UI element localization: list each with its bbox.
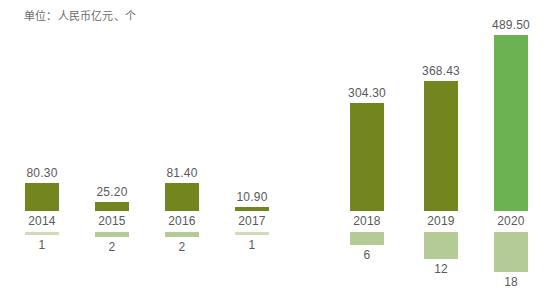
plot-area: 80.302014125.202015281.402016210.9020171… (0, 0, 547, 299)
amount-bar (235, 207, 269, 211)
count-slot: 2 (77, 232, 147, 255)
chart-column-2016: 81.4020162 (147, 0, 217, 299)
count-value-label: 2 (147, 240, 217, 254)
bar-slot (7, 0, 77, 211)
chart-column-2014: 80.3020141 (7, 0, 77, 299)
count-slot: 2 (147, 232, 217, 255)
bar-slot (406, 0, 476, 211)
count-bar (235, 232, 269, 235)
count-slot: 12 (406, 232, 476, 277)
bar-slot (217, 0, 287, 211)
chart-column-2019: 368.43201912 (406, 0, 476, 299)
count-bar (25, 232, 59, 235)
chart-column-2020: 489.50202018 (476, 0, 546, 299)
amount-bar (95, 202, 129, 211)
count-value-label: 1 (217, 238, 287, 252)
count-value-label: 2 (77, 240, 147, 254)
count-slot: 18 (476, 232, 546, 290)
x-axis-tick-label: 2014 (7, 214, 77, 228)
x-axis-tick-label: 2016 (147, 214, 217, 228)
count-value-label: 1 (7, 238, 77, 252)
count-slot: 6 (332, 232, 402, 263)
chart-column-2017: 10.9020171 (217, 0, 287, 299)
bar-slot (147, 0, 217, 211)
amount-bar (424, 81, 458, 211)
x-axis-tick-label: 2018 (332, 214, 402, 228)
x-axis-tick-label: 2019 (406, 214, 476, 228)
bar-slot (77, 0, 147, 211)
bar-slot (332, 0, 402, 211)
count-value-label: 6 (332, 248, 402, 262)
count-value-label: 18 (476, 275, 546, 289)
bar-slot (476, 0, 546, 211)
amount-bar (494, 35, 528, 211)
chart-column-2018: 304.3020186 (332, 0, 402, 299)
bar-chart-figure: 单位：人民币亿元、个 80.302014125.202015281.402016… (0, 0, 547, 299)
amount-bar (350, 103, 384, 211)
amount-bar (165, 183, 199, 211)
count-bar (95, 232, 129, 237)
count-bar (494, 232, 528, 272)
x-axis-tick-label: 2020 (476, 214, 546, 228)
x-axis-tick-label: 2017 (217, 214, 287, 228)
count-slot: 1 (7, 232, 77, 253)
amount-bar (25, 183, 59, 211)
count-bar (165, 232, 199, 237)
count-bar (424, 232, 458, 259)
count-value-label: 12 (406, 262, 476, 276)
count-bar (350, 232, 384, 245)
x-axis-tick-label: 2015 (77, 214, 147, 228)
count-slot: 1 (217, 232, 287, 253)
chart-column-2015: 25.2020152 (77, 0, 147, 299)
